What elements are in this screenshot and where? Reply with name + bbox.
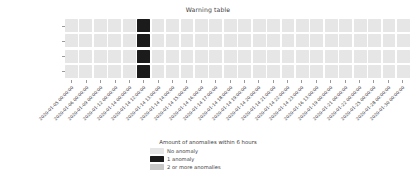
heatmap-cell[interactable]	[94, 65, 107, 78]
heatmap-cell[interactable]	[339, 34, 352, 47]
heatmap-cell[interactable]	[209, 65, 222, 78]
heatmap-cell[interactable]	[152, 34, 165, 47]
heatmap-cell[interactable]	[282, 65, 295, 78]
heatmap-cell[interactable]	[397, 34, 410, 47]
heatmap-cell[interactable]	[354, 34, 367, 47]
heatmap-cell[interactable]	[195, 65, 208, 78]
heatmap-cell[interactable]	[296, 50, 309, 63]
heatmap-cell[interactable]	[79, 65, 92, 78]
heatmap-cell[interactable]	[166, 50, 179, 63]
legend-item[interactable]: No anomaly	[0, 147, 416, 155]
heatmap-cell[interactable]	[94, 34, 107, 47]
heatmap-cell[interactable]	[181, 50, 194, 63]
heatmap-cell[interactable]	[137, 19, 150, 32]
heatmap-cell[interactable]	[166, 65, 179, 78]
heatmap-cell[interactable]	[79, 50, 92, 63]
heatmap-cell[interactable]	[224, 34, 237, 47]
heatmap-cell[interactable]	[79, 34, 92, 47]
heatmap-cell[interactable]	[296, 34, 309, 47]
heatmap-cell[interactable]	[397, 65, 410, 78]
heatmap-cell[interactable]	[310, 19, 323, 32]
heatmap-cell[interactable]	[383, 50, 396, 63]
heatmap-cell[interactable]	[152, 65, 165, 78]
heatmap-cell[interactable]	[123, 65, 136, 78]
heatmap-cell[interactable]	[383, 34, 396, 47]
heatmap-cell[interactable]	[224, 50, 237, 63]
heatmap-cell[interactable]	[65, 34, 78, 47]
heatmap-cell[interactable]	[325, 19, 338, 32]
heatmap-cell[interactable]	[267, 19, 280, 32]
heatmap-cell[interactable]	[383, 19, 396, 32]
legend-item-label: No anomaly	[167, 148, 198, 154]
heatmap-cell[interactable]	[354, 19, 367, 32]
heatmap-cell[interactable]	[310, 50, 323, 63]
heatmap-cell[interactable]	[282, 19, 295, 32]
heatmap-cell[interactable]	[267, 65, 280, 78]
heatmap-cell[interactable]	[354, 65, 367, 78]
heatmap-cell[interactable]	[253, 34, 266, 47]
legend-item[interactable]: 2 or more anomalies	[0, 163, 416, 171]
heatmap-cell[interactable]	[296, 65, 309, 78]
heatmap-cell[interactable]	[195, 34, 208, 47]
heatmap-cell[interactable]	[238, 65, 251, 78]
heatmap-cell[interactable]	[368, 34, 381, 47]
heatmap-cell[interactable]	[108, 19, 121, 32]
heatmap-cell[interactable]	[397, 50, 410, 63]
heatmap-cell[interactable]	[166, 34, 179, 47]
heatmap-cell[interactable]	[152, 50, 165, 63]
heatmap-cell[interactable]	[368, 50, 381, 63]
heatmap-cell[interactable]	[209, 34, 222, 47]
heatmap-cell[interactable]	[123, 34, 136, 47]
heatmap-cell[interactable]	[195, 50, 208, 63]
heatmap-cell[interactable]	[79, 19, 92, 32]
heatmap-cell[interactable]	[282, 34, 295, 47]
heatmap-cell[interactable]	[123, 50, 136, 63]
heatmap-cell[interactable]	[368, 65, 381, 78]
heatmap-cell[interactable]	[152, 19, 165, 32]
heatmap-cell[interactable]	[339, 19, 352, 32]
legend-item[interactable]: 1 anomaly	[0, 155, 416, 163]
heatmap-cell[interactable]	[123, 19, 136, 32]
heatmap-cell[interactable]	[253, 65, 266, 78]
heatmap-cell[interactable]	[108, 34, 121, 47]
heatmap-cell[interactable]	[65, 19, 78, 32]
heatmap-cell[interactable]	[137, 34, 150, 47]
heatmap-cell[interactable]	[137, 50, 150, 63]
heatmap-cell[interactable]	[238, 34, 251, 47]
heatmap-cell[interactable]	[310, 34, 323, 47]
heatmap-cell[interactable]	[325, 65, 338, 78]
heatmap-cell[interactable]	[282, 50, 295, 63]
heatmap-cell[interactable]	[296, 19, 309, 32]
heatmap-cell[interactable]	[94, 50, 107, 63]
heatmap-cell[interactable]	[253, 19, 266, 32]
heatmap-cell[interactable]	[65, 65, 78, 78]
heatmap-cell[interactable]	[267, 50, 280, 63]
heatmap-cell[interactable]	[195, 19, 208, 32]
heatmap-cell[interactable]	[354, 50, 367, 63]
heatmap-cell[interactable]	[238, 50, 251, 63]
heatmap-cell[interactable]	[137, 65, 150, 78]
heatmap-cell[interactable]	[209, 50, 222, 63]
heatmap-cell[interactable]	[253, 50, 266, 63]
heatmap-cell[interactable]	[368, 19, 381, 32]
heatmap-cell[interactable]	[267, 34, 280, 47]
heatmap-cell[interactable]	[339, 50, 352, 63]
heatmap-cell[interactable]	[181, 19, 194, 32]
heatmap-cell[interactable]	[310, 65, 323, 78]
heatmap-cell[interactable]	[325, 50, 338, 63]
heatmap-cell[interactable]	[224, 19, 237, 32]
heatmap-cell[interactable]	[108, 65, 121, 78]
heatmap-cell[interactable]	[108, 50, 121, 63]
heatmap-cell[interactable]	[325, 34, 338, 47]
heatmap-cell[interactable]	[166, 19, 179, 32]
heatmap-cell[interactable]	[339, 65, 352, 78]
heatmap-cell[interactable]	[181, 65, 194, 78]
heatmap-cell[interactable]	[383, 65, 396, 78]
heatmap-cell[interactable]	[397, 19, 410, 32]
heatmap-cell[interactable]	[209, 19, 222, 32]
heatmap-cell[interactable]	[181, 34, 194, 47]
heatmap-cell[interactable]	[224, 65, 237, 78]
heatmap-cell[interactable]	[65, 50, 78, 63]
heatmap-cell[interactable]	[94, 19, 107, 32]
heatmap-cell[interactable]	[238, 19, 251, 32]
